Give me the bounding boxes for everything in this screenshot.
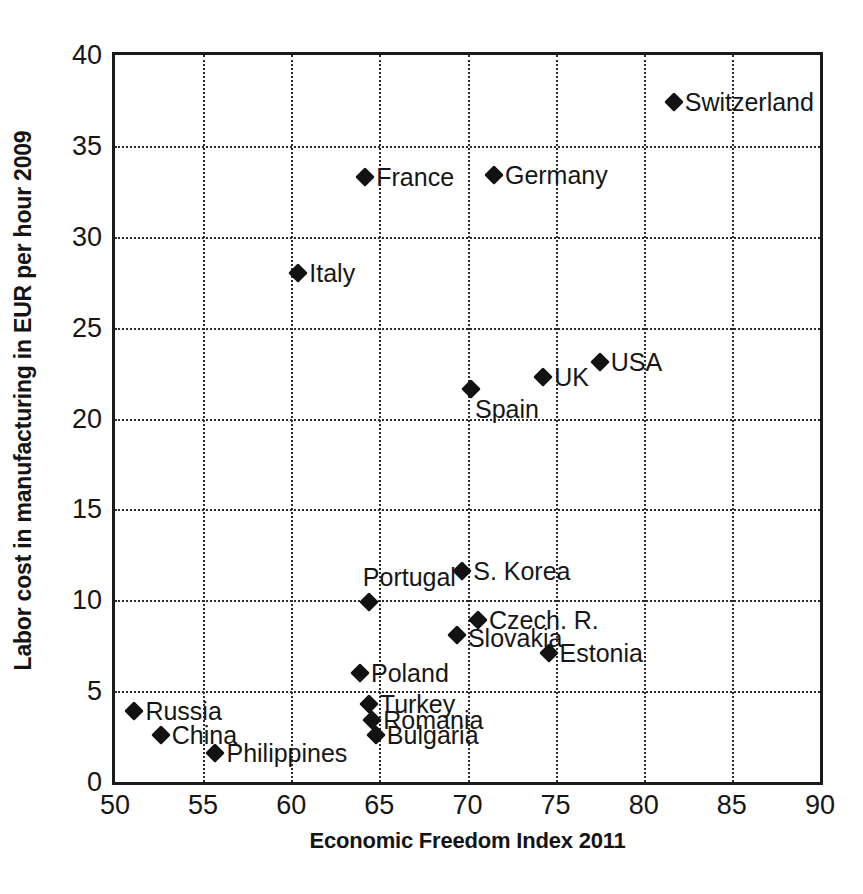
diamond-marker-icon	[447, 625, 467, 645]
y-axis-tick-label: 40	[56, 42, 102, 69]
x-axis-tick-label: 80	[629, 792, 659, 819]
y-axis-tick-label: 0	[56, 769, 102, 796]
x-axis-tick-label: 65	[364, 792, 394, 819]
gridline-horizontal	[115, 509, 820, 511]
data-point-label: USA	[611, 350, 662, 375]
diamond-marker-icon	[484, 165, 504, 185]
diamond-marker-icon	[533, 367, 553, 387]
data-point-label: Germany	[505, 163, 608, 188]
y-axis-title-text: Labor cost in manufacturing in EUR per h…	[11, 130, 38, 670]
x-axis-tick-label: 60	[276, 792, 306, 819]
plot-area: SwitzerlandGermanyFranceItalyUSAUKSpainS…	[112, 52, 823, 785]
gridline-horizontal	[115, 146, 820, 148]
y-axis-tick-label: 15	[56, 496, 102, 523]
y-axis-title: Labor cost in manufacturing in EUR per h…	[0, 0, 48, 800]
data-point-label: Portugal	[363, 565, 456, 590]
x-axis-tick-labels: 505560657075808590	[112, 792, 823, 826]
diamond-marker-icon	[664, 92, 684, 112]
data-point-label: France	[376, 165, 454, 190]
data-point-label: Estonia	[560, 641, 643, 666]
scatter-chart-figure: Labor cost in manufacturing in EUR per h…	[0, 0, 863, 894]
gridline-horizontal	[115, 237, 820, 239]
x-axis-tick-label: 50	[100, 792, 130, 819]
y-axis-tick-label: 10	[56, 587, 102, 614]
x-axis-tick-label: 75	[541, 792, 571, 819]
data-point-label: Switzerland	[685, 90, 814, 115]
data-point-label: Poland	[371, 661, 449, 686]
gridline-horizontal	[115, 419, 820, 421]
y-axis-tick-label: 35	[56, 132, 102, 159]
diamond-marker-icon	[124, 701, 144, 721]
data-point-label: Bulgaria	[387, 723, 479, 748]
diamond-marker-icon	[590, 352, 610, 372]
diamond-marker-icon	[151, 725, 171, 745]
data-point-label: S. Korea	[473, 559, 570, 584]
data-point-label: Spain	[475, 397, 539, 422]
x-axis-tick-label: 90	[805, 792, 835, 819]
data-point-label: Italy	[309, 261, 355, 286]
gridline-horizontal	[115, 691, 820, 693]
gridline-horizontal	[115, 600, 820, 602]
x-axis-title: Economic Freedom Index 2011	[112, 828, 823, 854]
y-axis-tick-label: 30	[56, 223, 102, 250]
diamond-marker-icon	[355, 167, 375, 187]
x-axis-tick-label: 55	[188, 792, 218, 819]
data-point-label: Philippines	[226, 741, 347, 766]
y-axis-tick-label: 25	[56, 314, 102, 341]
diamond-marker-icon	[359, 592, 379, 612]
x-axis-tick-label: 70	[452, 792, 482, 819]
y-axis-tick-label: 20	[56, 405, 102, 432]
gridline-horizontal	[115, 328, 820, 330]
data-point-label: UK	[554, 365, 589, 390]
x-axis-tick-label: 85	[717, 792, 747, 819]
y-axis-tick-labels: 0510152025303540	[46, 52, 102, 785]
y-axis-tick-label: 5	[56, 678, 102, 705]
diamond-marker-icon	[359, 694, 379, 714]
diamond-marker-icon	[350, 663, 370, 683]
